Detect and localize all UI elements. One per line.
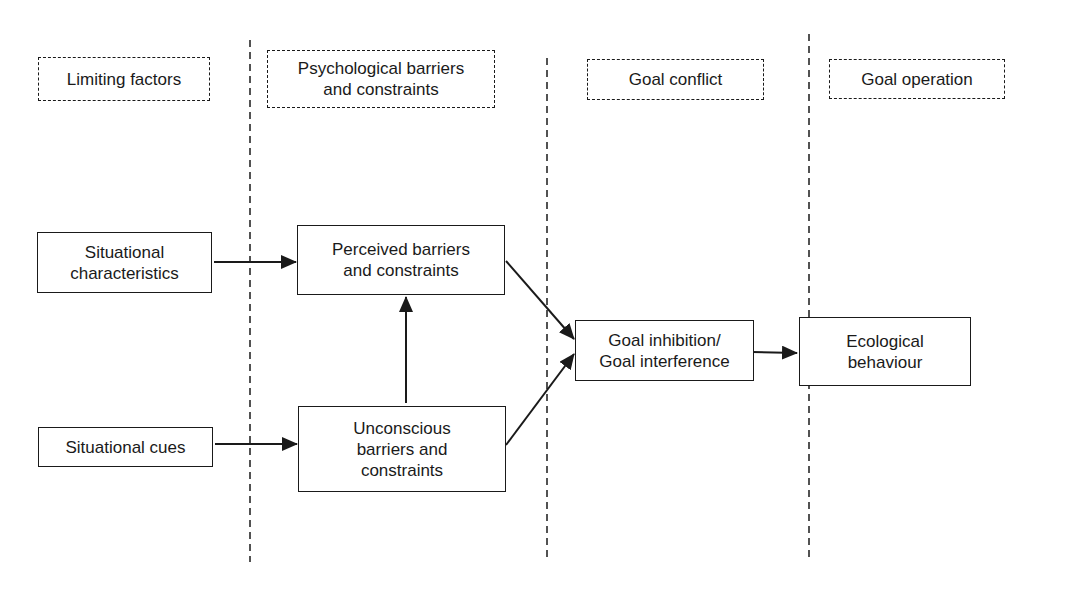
- node-unconscious-barriers-label: Unconscious barriers and constraints: [353, 418, 450, 481]
- node-situational-cues-label: Situational cues: [65, 437, 185, 458]
- node-situational-cues: Situational cues: [38, 427, 213, 467]
- arrow-perceived-to-goal-inhibition: [506, 261, 574, 339]
- arrow-goal-inhibition-to-ecological: [752, 352, 797, 353]
- header-limiting-factors-label: Limiting factors: [67, 69, 181, 90]
- node-goal-inhibition: Goal inhibition/ Goal interference: [575, 320, 754, 381]
- node-perceived-barriers-label: Perceived barriers and constraints: [332, 239, 470, 281]
- node-situational-characteristics-label: Situational characteristics: [70, 242, 179, 284]
- node-unconscious-barriers: Unconscious barriers and constraints: [298, 406, 506, 492]
- node-ecological-behaviour: Ecological behaviour: [799, 317, 971, 386]
- header-goal-conflict-label: Goal conflict: [629, 69, 723, 90]
- node-goal-inhibition-label: Goal inhibition/ Goal interference: [599, 330, 729, 372]
- node-situational-characteristics: Situational characteristics: [37, 232, 212, 293]
- header-psychological-barriers: Psychological barriers and constraints: [267, 50, 495, 108]
- header-goal-conflict: Goal conflict: [587, 59, 764, 100]
- node-ecological-behaviour-label: Ecological behaviour: [846, 331, 924, 373]
- arrow-unconscious-to-goal-inhibition: [506, 354, 574, 445]
- header-goal-operation-label: Goal operation: [861, 69, 973, 90]
- diagram-canvas: Limiting factors Psychological barriers …: [0, 0, 1067, 592]
- node-perceived-barriers: Perceived barriers and constraints: [297, 225, 505, 295]
- header-limiting-factors: Limiting factors: [38, 57, 210, 101]
- header-psychological-barriers-label: Psychological barriers and constraints: [298, 58, 464, 100]
- header-goal-operation: Goal operation: [829, 59, 1005, 99]
